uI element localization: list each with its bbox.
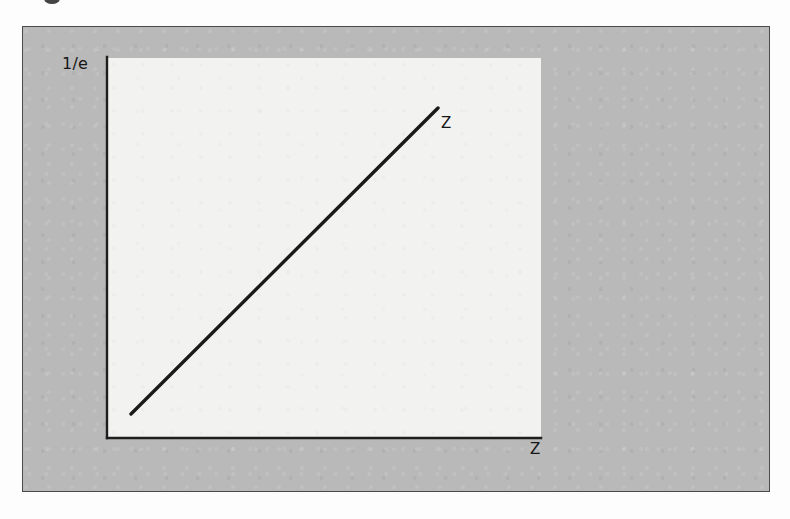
- scanned-page: 1/e Z Z: [0, 0, 790, 519]
- data-series-line: [131, 108, 438, 414]
- caption-glyph-fragment-icon: [44, 0, 60, 4]
- y-axis-label: 1/e: [62, 56, 88, 72]
- series-end-label: Z: [441, 116, 451, 131]
- figure-frame: 1/e Z Z: [22, 26, 770, 492]
- chart-canvas: [23, 27, 769, 491]
- x-axis-label: Z: [530, 442, 540, 457]
